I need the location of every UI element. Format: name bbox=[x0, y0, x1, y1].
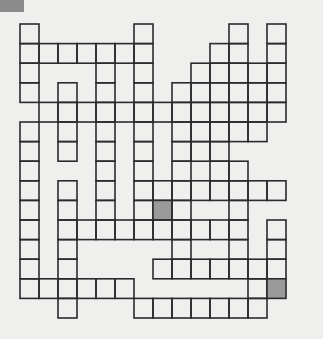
grid-cell[interactable] bbox=[20, 181, 39, 201]
grid-cell[interactable] bbox=[248, 63, 267, 83]
grid-cell[interactable] bbox=[20, 240, 39, 260]
grid-cell[interactable] bbox=[267, 63, 286, 83]
grid-cell[interactable] bbox=[191, 83, 210, 103]
grid-cell[interactable] bbox=[58, 44, 77, 64]
grid-cell[interactable] bbox=[191, 142, 210, 162]
grid-cell[interactable] bbox=[248, 259, 267, 279]
grid-cell[interactable] bbox=[248, 122, 267, 142]
grid-cell[interactable] bbox=[58, 102, 77, 122]
grid-cell[interactable] bbox=[58, 259, 77, 279]
grid-cell[interactable] bbox=[96, 122, 115, 142]
grid-cell[interactable] bbox=[39, 279, 58, 299]
crossword-grid[interactable] bbox=[0, 0, 323, 339]
grid-cell[interactable] bbox=[96, 161, 115, 181]
grid-cell[interactable] bbox=[134, 63, 153, 83]
shaded-cell[interactable] bbox=[267, 279, 286, 299]
grid-cell[interactable] bbox=[20, 122, 39, 142]
grid-cell[interactable] bbox=[229, 102, 248, 122]
grid-cell[interactable] bbox=[20, 279, 39, 299]
grid-cell[interactable] bbox=[134, 220, 153, 240]
grid-cell[interactable] bbox=[58, 83, 77, 103]
grid-cell[interactable] bbox=[248, 102, 267, 122]
grid-cell[interactable] bbox=[153, 220, 172, 240]
grid-cell[interactable] bbox=[267, 83, 286, 103]
grid-cell[interactable] bbox=[210, 63, 229, 83]
grid-cell[interactable] bbox=[96, 102, 115, 122]
grid-cell[interactable] bbox=[58, 240, 77, 260]
grid-cell[interactable] bbox=[172, 240, 191, 260]
grid-cell[interactable] bbox=[267, 44, 286, 64]
grid-cell[interactable] bbox=[210, 122, 229, 142]
grid-cell[interactable] bbox=[210, 142, 229, 162]
grid-cell[interactable] bbox=[134, 161, 153, 181]
grid-cell[interactable] bbox=[58, 298, 77, 318]
grid-cell[interactable] bbox=[58, 122, 77, 142]
grid-cell[interactable] bbox=[210, 298, 229, 318]
grid-cell[interactable] bbox=[172, 142, 191, 162]
grid-cell[interactable] bbox=[191, 259, 210, 279]
grid-cell[interactable] bbox=[248, 279, 267, 299]
grid-cell[interactable] bbox=[134, 24, 153, 44]
grid-cell[interactable] bbox=[134, 83, 153, 103]
grid-cell[interactable] bbox=[58, 200, 77, 220]
grid-cell[interactable] bbox=[134, 298, 153, 318]
grid-cell[interactable] bbox=[267, 24, 286, 44]
grid-cell[interactable] bbox=[20, 200, 39, 220]
grid-cell[interactable] bbox=[153, 259, 172, 279]
grid-cell[interactable] bbox=[210, 161, 229, 181]
grid-cell[interactable] bbox=[210, 83, 229, 103]
grid-cell[interactable] bbox=[96, 83, 115, 103]
grid-cell[interactable] bbox=[96, 279, 115, 299]
grid-cell[interactable] bbox=[210, 220, 229, 240]
grid-cell[interactable] bbox=[229, 161, 248, 181]
grid-cell[interactable] bbox=[39, 102, 58, 122]
grid-cell[interactable] bbox=[20, 63, 39, 83]
grid-cell[interactable] bbox=[58, 181, 77, 201]
grid-cell[interactable] bbox=[153, 181, 172, 201]
shaded-cell[interactable] bbox=[153, 200, 172, 220]
grid-cell[interactable] bbox=[39, 44, 58, 64]
grid-cell[interactable] bbox=[229, 200, 248, 220]
grid-cell[interactable] bbox=[153, 102, 172, 122]
grid-cell[interactable] bbox=[96, 220, 115, 240]
grid-cell[interactable] bbox=[77, 220, 96, 240]
grid-cell[interactable] bbox=[267, 181, 286, 201]
grid-cell[interactable] bbox=[172, 83, 191, 103]
grid-cell[interactable] bbox=[115, 279, 134, 299]
grid-cell[interactable] bbox=[153, 298, 172, 318]
grid-cell[interactable] bbox=[210, 181, 229, 201]
grid-cell[interactable] bbox=[229, 181, 248, 201]
grid-cell[interactable] bbox=[267, 102, 286, 122]
grid-cell[interactable] bbox=[172, 102, 191, 122]
grid-cell[interactable] bbox=[229, 44, 248, 64]
grid-cell[interactable] bbox=[191, 102, 210, 122]
grid-cell[interactable] bbox=[248, 181, 267, 201]
grid-cell[interactable] bbox=[134, 122, 153, 142]
grid-cell[interactable] bbox=[229, 240, 248, 260]
grid-cell[interactable] bbox=[134, 142, 153, 162]
grid-cell[interactable] bbox=[58, 279, 77, 299]
grid-cell[interactable] bbox=[115, 44, 134, 64]
grid-cell[interactable] bbox=[96, 181, 115, 201]
grid-cell[interactable] bbox=[248, 298, 267, 318]
grid-cell[interactable] bbox=[77, 279, 96, 299]
grid-cell[interactable] bbox=[229, 298, 248, 318]
grid-cell[interactable] bbox=[210, 44, 229, 64]
grid-cell[interactable] bbox=[267, 240, 286, 260]
grid-cell[interactable] bbox=[58, 220, 77, 240]
grid-cell[interactable] bbox=[134, 181, 153, 201]
grid-cell[interactable] bbox=[229, 63, 248, 83]
grid-cell[interactable] bbox=[191, 220, 210, 240]
grid-cell[interactable] bbox=[96, 200, 115, 220]
grid-cell[interactable] bbox=[172, 220, 191, 240]
grid-cell[interactable] bbox=[134, 44, 153, 64]
grid-cell[interactable] bbox=[210, 102, 229, 122]
grid-cell[interactable] bbox=[267, 259, 286, 279]
grid-cell[interactable] bbox=[134, 102, 153, 122]
grid-cell[interactable] bbox=[96, 63, 115, 83]
grid-cell[interactable] bbox=[172, 298, 191, 318]
grid-cell[interactable] bbox=[20, 24, 39, 44]
grid-cell[interactable] bbox=[115, 220, 134, 240]
grid-cell[interactable] bbox=[210, 259, 229, 279]
grid-cell[interactable] bbox=[229, 83, 248, 103]
